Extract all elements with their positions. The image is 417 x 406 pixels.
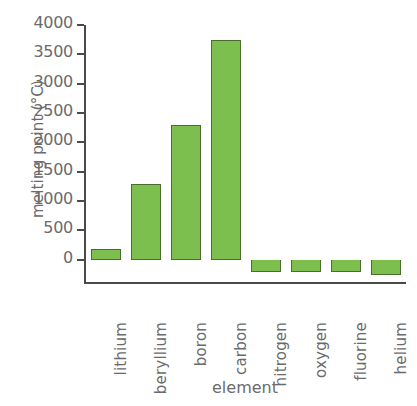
- y-axis-tick-label: 2000: [33, 130, 73, 149]
- y-axis-tick: 3500: [77, 53, 84, 55]
- y-axis-tick: 1500: [77, 171, 84, 173]
- bar-nitrogen[interactable]: [251, 260, 281, 272]
- bar-series: [86, 25, 406, 283]
- x-axis-tick-label-lithium: lithium: [112, 322, 130, 375]
- bar-slot: [86, 25, 126, 283]
- y-axis-tick: 1000: [77, 200, 84, 202]
- bar-boron[interactable]: [171, 125, 201, 260]
- y-axis-tick-label: 3500: [33, 42, 73, 61]
- y-axis-tick-label: 4000: [33, 13, 73, 32]
- bar-fluorine[interactable]: [331, 260, 361, 273]
- bar-chart-figure: melting point (°C) 050010001500200025003…: [0, 0, 417, 406]
- y-axis-tick: 4000: [77, 24, 84, 26]
- plot-area: 05001000150020002500300035004000 lithium…: [84, 25, 406, 283]
- x-axis-tick-label-oxygen: oxygen: [312, 322, 330, 378]
- bar-slot: [126, 25, 166, 283]
- x-axis-tick-label-fluorine: fluorine: [352, 322, 370, 381]
- y-axis-tick: 3000: [77, 83, 84, 85]
- x-axis-tick-label-nitrogen: nitrogen: [272, 322, 290, 386]
- x-axis-title: element: [84, 378, 406, 397]
- bar-helium[interactable]: [371, 260, 401, 276]
- bar-slot: [326, 25, 366, 283]
- y-axis-tick: 500: [77, 229, 84, 231]
- bar-slot: [166, 25, 206, 283]
- bar-lithium[interactable]: [91, 249, 121, 260]
- y-axis-tick-label: 2500: [33, 101, 73, 120]
- y-axis-tick: 0: [77, 259, 84, 261]
- x-axis-tick-label-helium: helium: [392, 322, 410, 374]
- bar-slot: [366, 25, 406, 283]
- bar-slot: [286, 25, 326, 283]
- y-axis-tick: 2000: [77, 141, 84, 143]
- x-axis-tick-label-carbon: carbon: [232, 322, 250, 375]
- y-axis-tick: 2500: [77, 112, 84, 114]
- x-axis-tick-label-boron: boron: [192, 322, 210, 366]
- bar-slot: [206, 25, 246, 283]
- y-axis-tick-label: 1500: [33, 160, 73, 179]
- y-axis-tick-label: 500: [43, 218, 73, 237]
- bar-oxygen[interactable]: [291, 260, 321, 273]
- y-axis-tick-label: 0: [63, 248, 73, 267]
- y-axis-tick-label: 3000: [33, 72, 73, 91]
- bar-beryllium[interactable]: [131, 184, 161, 259]
- bar-slot: [246, 25, 286, 283]
- y-axis-tick-label: 1000: [33, 189, 73, 208]
- bar-carbon[interactable]: [211, 40, 241, 260]
